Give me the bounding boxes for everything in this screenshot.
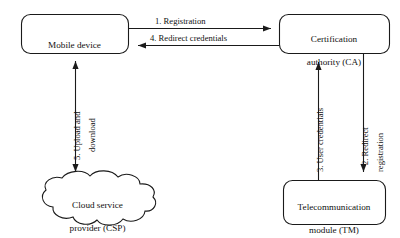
diagram-canvas: Mobile device Certification authority (C…	[0, 0, 400, 238]
edge-upload-download-label-line2: download	[87, 118, 97, 152]
node-telecommunication-module-shape	[284, 181, 386, 225]
edge-redirect-credentials-label: 4. Redirect credentials	[150, 33, 227, 43]
node-certification-authority-shape	[280, 15, 390, 54]
edge-registration-label: 1. Registration	[155, 16, 206, 26]
node-mobile-device-shape	[22, 15, 129, 54]
edge-upload-download-label-line1: 5. Upload and	[72, 112, 82, 160]
edge-user-credentials-label: 3. User credentials	[315, 108, 325, 172]
edge-redirect-registration-label-line1: 2. Redirect	[360, 127, 370, 165]
node-cloud-service-provider-shape	[42, 171, 155, 225]
edge-redirect-registration-label-line2: registration	[375, 133, 385, 172]
